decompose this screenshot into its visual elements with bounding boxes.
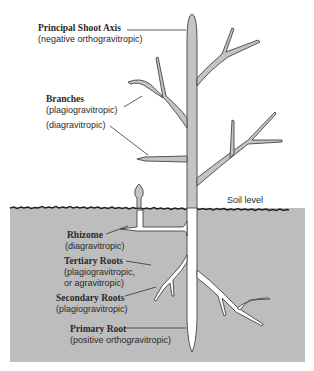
label-principal-shoot: Principal Shoot Axis (negative orthograv…: [38, 23, 143, 44]
rhizome-shoot: [135, 184, 144, 208]
branches-sub: (plagiogravitropic): [46, 105, 118, 115]
tertiary-roots-title: Tertiary Roots: [64, 256, 123, 266]
tertiary-roots-sub: (plagiogravitropic,: [64, 267, 135, 277]
branch-diagravitropic: [137, 156, 187, 162]
branch-upper-left: [128, 57, 187, 128]
branch-middle-right: [197, 112, 282, 186]
principal-shoot-title: Principal Shoot Axis: [38, 23, 121, 33]
shoot-system: [128, 14, 282, 210]
rhizome-sub: (diagravitropic): [65, 241, 125, 251]
branch-spur-right: [230, 120, 234, 158]
tertiary-roots-sub2: or agravitropic): [64, 278, 124, 288]
branches-sub2: (diagravitropic): [46, 120, 106, 130]
label-branches: Branches (plagiogravitropic) (diagravitr…: [46, 94, 118, 130]
label-secondary-roots: Secondary Roots (plagiogravitropic): [56, 293, 128, 314]
primary-root-title: Primary Root: [70, 324, 127, 334]
gravitropism-diagram: Principal Shoot Axis (negative orthograv…: [0, 0, 314, 371]
secondary-roots-sub: (plagiogravitropic): [56, 304, 128, 314]
branch-upper-right: [197, 28, 260, 86]
rhizome-title: Rhizome: [67, 230, 103, 240]
branches-title: Branches: [46, 94, 84, 104]
secondary-roots-title: Secondary Roots: [56, 293, 125, 303]
soil-level-label: Soil level: [227, 195, 263, 205]
principal-shoot-axis: [187, 14, 197, 210]
principal-shoot-sub: (negative orthogravitropic): [38, 34, 143, 44]
primary-root: [187, 208, 197, 352]
primary-root-sub: (positive orthogravitropic): [70, 335, 171, 345]
